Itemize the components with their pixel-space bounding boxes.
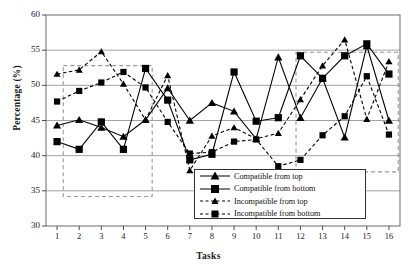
data-point-marker bbox=[142, 116, 149, 122]
data-point-marker bbox=[274, 53, 282, 60]
data-point-marker bbox=[385, 58, 392, 64]
y-tick-label: 60 bbox=[18, 9, 40, 19]
x-tick-label: 9 bbox=[225, 231, 243, 241]
data-point-marker bbox=[319, 75, 326, 82]
x-tick-label: 14 bbox=[336, 231, 354, 241]
data-point-marker bbox=[385, 70, 392, 77]
data-point-marker bbox=[120, 69, 126, 75]
x-tick-label: 1 bbox=[48, 231, 66, 241]
y-tick-label: 35 bbox=[18, 185, 40, 195]
data-point-marker bbox=[297, 96, 304, 102]
data-point-marker bbox=[208, 133, 215, 139]
data-point-marker bbox=[76, 88, 82, 94]
series-line bbox=[57, 40, 389, 171]
legend-symbol-triangle-dashed bbox=[198, 195, 232, 207]
y-tick-label: 55 bbox=[18, 44, 40, 54]
data-point-marker bbox=[164, 97, 171, 104]
data-point-marker bbox=[164, 72, 171, 78]
data-point-marker bbox=[209, 149, 215, 155]
y-tick-label: 30 bbox=[18, 220, 40, 230]
legend-symbol-square-solid bbox=[198, 183, 232, 195]
x-tick-label: 4 bbox=[114, 231, 132, 241]
data-point-marker bbox=[275, 130, 282, 136]
legend-label: Incompatible from bottom bbox=[234, 209, 320, 218]
x-tick-label: 10 bbox=[247, 231, 265, 241]
data-point-marker bbox=[98, 79, 104, 85]
x-tick-label: 13 bbox=[314, 231, 332, 241]
data-point-marker bbox=[76, 146, 83, 153]
x-tick-label: 8 bbox=[203, 231, 221, 241]
chart-canvas bbox=[0, 0, 417, 270]
data-point-marker bbox=[275, 114, 282, 121]
x-tick-label: 7 bbox=[181, 231, 199, 241]
series-line bbox=[57, 44, 389, 160]
data-point-marker bbox=[142, 65, 149, 72]
legend-item-incompatible-from-bottom: Incompatible from bottom bbox=[195, 208, 365, 221]
legend-symbol-triangle-solid bbox=[198, 170, 232, 182]
data-point-marker bbox=[187, 150, 193, 156]
data-point-marker bbox=[186, 167, 193, 173]
data-point-marker bbox=[341, 36, 348, 42]
data-point-marker bbox=[208, 99, 216, 106]
legend-label: Compatible from bottom bbox=[234, 184, 315, 193]
data-point-marker bbox=[54, 98, 60, 104]
data-point-marker bbox=[363, 40, 370, 47]
data-point-marker bbox=[253, 136, 259, 142]
data-point-marker bbox=[319, 132, 325, 138]
data-point-marker bbox=[342, 113, 348, 119]
data-point-marker bbox=[363, 116, 370, 122]
legend-symbol-square-dashed bbox=[198, 208, 232, 220]
data-point-marker bbox=[297, 157, 303, 163]
x-tick-label: 12 bbox=[291, 231, 309, 241]
legend-item-compatible-from-bottom: Compatible from bottom bbox=[195, 183, 365, 196]
legend-item-compatible-from-top: Compatible from top bbox=[195, 170, 365, 183]
data-point-marker bbox=[230, 124, 237, 130]
data-point-marker bbox=[53, 138, 60, 145]
data-point-marker bbox=[120, 146, 127, 153]
y-tick-label: 45 bbox=[18, 115, 40, 125]
series-2 bbox=[53, 40, 392, 163]
chart-legend: Compatible from top Compatible from bott… bbox=[194, 169, 366, 219]
y-tick-label: 40 bbox=[18, 150, 40, 160]
chart-figure: Percentage (%) Tasks 30354045505560 1234… bbox=[0, 0, 417, 270]
legend-item-incompatible-from-top: Incompatible from top bbox=[195, 195, 365, 208]
data-point-marker bbox=[296, 114, 304, 121]
data-point-marker bbox=[120, 81, 127, 87]
data-point-marker bbox=[341, 52, 348, 59]
data-point-marker bbox=[230, 107, 238, 114]
y-tick-label: 50 bbox=[18, 79, 40, 89]
data-point-marker bbox=[364, 73, 370, 79]
x-tick-label: 6 bbox=[159, 231, 177, 241]
data-point-marker bbox=[297, 52, 304, 59]
y-axis-title: Percentage (%) bbox=[12, 43, 22, 153]
x-tick-label: 5 bbox=[137, 231, 155, 241]
data-point-marker bbox=[75, 116, 83, 123]
data-point-marker bbox=[253, 118, 260, 125]
legend-label: Incompatible from top bbox=[234, 197, 308, 206]
data-point-marker bbox=[341, 133, 349, 140]
data-point-marker bbox=[98, 48, 105, 54]
x-tick-label: 16 bbox=[380, 231, 398, 241]
x-tick-label: 11 bbox=[269, 231, 287, 241]
data-point-marker bbox=[230, 68, 237, 75]
data-point-marker bbox=[165, 119, 171, 125]
x-tick-label: 15 bbox=[358, 231, 376, 241]
x-axis-title: Tasks bbox=[0, 251, 417, 261]
legend-label: Compatible from top bbox=[234, 172, 303, 181]
series-line bbox=[57, 72, 389, 166]
data-point-marker bbox=[386, 131, 392, 137]
data-point-marker bbox=[142, 84, 148, 90]
x-tick-label: 3 bbox=[92, 231, 110, 241]
data-point-marker bbox=[98, 118, 105, 125]
data-point-marker bbox=[231, 139, 237, 145]
x-tick-label: 2 bbox=[70, 231, 88, 241]
